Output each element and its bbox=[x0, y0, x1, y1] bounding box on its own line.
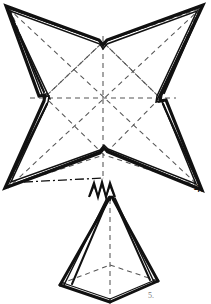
pyramid-face-right-inner bbox=[115, 198, 154, 282]
crease-quadrant-upper-right bbox=[103, 42, 160, 98]
pyramid-base-front-left-inner bbox=[63, 283, 110, 299]
figure-page: 4. 5. bbox=[0, 0, 211, 304]
ply-edge-top-a bbox=[8, 8, 100, 41]
zigzag-path-fill bbox=[90, 185, 114, 196]
pyramid-apex-cluster-a bbox=[72, 197, 109, 284]
pyramid-apex-cluster-b bbox=[113, 197, 150, 280]
pyramid-face-left-inner bbox=[64, 198, 107, 285]
step-label-5: 5. bbox=[148, 292, 154, 300]
crease-notch-bottom-right bbox=[104, 98, 160, 155]
pyramid-visible-edges bbox=[60, 197, 158, 302]
pyramid-group bbox=[60, 197, 158, 304]
bottom-axis-dashdot-group bbox=[24, 178, 104, 182]
zigzag-pleat-marker bbox=[89, 182, 115, 197]
bottom-dashdot-line bbox=[24, 178, 104, 182]
geometric-figure bbox=[0, 0, 211, 304]
pyramid-base-front-left bbox=[60, 285, 110, 302]
crease-lines-group bbox=[8, 8, 201, 188]
step-label-4: 4. bbox=[194, 181, 204, 194]
